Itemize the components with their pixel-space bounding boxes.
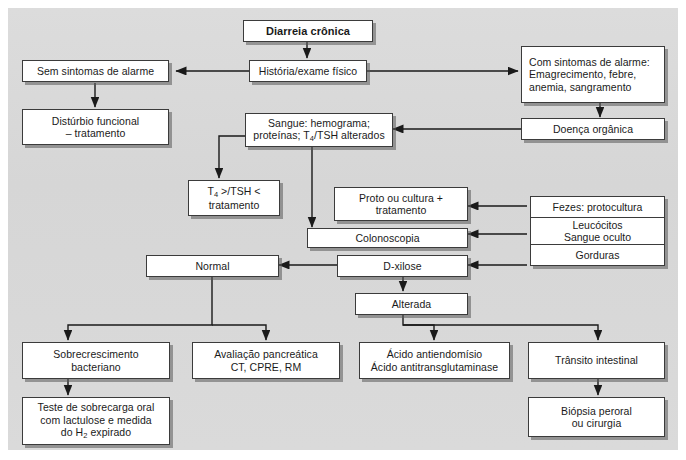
node-sangue-line1: Sangue: hemograma; [268, 117, 370, 130]
node-com-sintomas-de-alarme[interactable]: Com sintomas de alarme: Emagrecimento, f… [521, 46, 665, 103]
node-teste-line2: com lactulose e medida [40, 414, 151, 427]
node-fezes-gorduras-label: Gorduras [576, 249, 620, 262]
node-sem-sintomas-de-alarme-label: Sem sintomas de alarme [27, 65, 164, 78]
node-fezes-leucocitos-sangue-oculto[interactable]: Leucócitos Sangue oculto [531, 218, 664, 245]
node-biopsia-peroral-label: Biópsia peroral ou cirurgia [533, 405, 660, 430]
node-diarreia-cronica-label: Diarreia crônica [248, 25, 368, 38]
node-teste-line3: do H2 expirado [61, 426, 131, 441]
node-sangue-hemograma[interactable]: Sangue: hemograma; proteínas; T4/TSH alt… [245, 113, 393, 147]
node-disturbio-funcional-label: Distúrbio funcional – tratamento [27, 115, 164, 140]
node-t4-line2: tratamento [209, 199, 260, 212]
node-disturbio-funcional[interactable]: Distúrbio funcional – tratamento [22, 109, 169, 145]
node-acido-antiendomisio-label: Ácido antiendomísio Ácido antitransgluta… [364, 348, 505, 373]
node-avaliacao-pancreatica[interactable]: Avaliação pancreática CT, CPRE, RM [192, 342, 340, 379]
node-historia-exame-fisico[interactable]: História/exame físico [249, 60, 367, 82]
node-sobrecrescimento-bacteriano[interactable]: Sobrecrescimento bacteriano [22, 342, 170, 379]
node-normal[interactable]: Normal [146, 255, 279, 277]
node-sem-sintomas-de-alarme[interactable]: Sem sintomas de alarme [22, 60, 169, 82]
node-fezes-protocultura[interactable]: Fezes: protocultura [531, 197, 664, 218]
node-d-xilose-label: D-xilose [342, 260, 463, 273]
node-d-xilose[interactable]: D-xilose [337, 255, 468, 277]
node-colonoscopia[interactable]: Colonoscopia [307, 228, 468, 248]
node-biopsia-peroral[interactable]: Biópsia peroral ou cirurgia [528, 397, 665, 437]
node-colonoscopia-label: Colonoscopia [312, 232, 463, 245]
node-diarreia-cronica[interactable]: Diarreia crônica [243, 20, 373, 42]
node-normal-label: Normal [151, 260, 274, 273]
flowchart-canvas: Diarreia crônica História/exame físico S… [0, 0, 686, 460]
node-alterada-label: Alterada [360, 298, 463, 311]
node-historia-exame-fisico-label: História/exame físico [254, 65, 362, 78]
node-fezes-protocultura-label: Fezes: protocultura [553, 201, 643, 214]
node-teste-line1: Teste de sobrecarga oral [38, 401, 155, 414]
node-proto-ou-cultura[interactable]: Proto ou cultura + tratamento [334, 187, 468, 221]
node-proto-ou-cultura-label: Proto ou cultura + tratamento [339, 192, 463, 217]
node-teste-sobrecarga-oral[interactable]: Teste de sobrecarga oral com lactulose e… [22, 397, 170, 445]
node-doenca-organica[interactable]: Doença orgânica [521, 118, 665, 140]
node-t4-tsh-tratamento[interactable]: T4 >/TSH < tratamento [188, 180, 280, 216]
node-fezes-leucocitos-label: Leucócitos Sangue oculto [564, 219, 631, 244]
node-alterada[interactable]: Alterada [355, 293, 468, 315]
node-com-sintomas-de-alarme-label: Com sintomas de alarme: Emagrecimento, f… [529, 56, 660, 94]
node-avaliacao-pancreatica-label: Avaliação pancreática CT, CPRE, RM [197, 348, 335, 373]
node-sobrecrescimento-bacteriano-label: Sobrecrescimento bacteriano [27, 348, 165, 373]
node-transito-intestinal[interactable]: Trânsito intestinal [528, 342, 665, 379]
node-transito-intestinal-label: Trânsito intestinal [533, 354, 660, 367]
node-acido-antiendomisio[interactable]: Ácido antiendomísio Ácido antitransgluta… [359, 342, 510, 379]
node-fezes-stack[interactable]: Fezes: protocultura Leucócitos Sangue oc… [530, 196, 665, 266]
node-t4-line1: T4 >/TSH < [207, 185, 260, 200]
node-doenca-organica-label: Doença orgânica [526, 123, 660, 136]
node-fezes-gorduras[interactable]: Gorduras [531, 245, 664, 265]
node-sangue-line2: proteínas; T4/TSH alterados [253, 129, 384, 144]
